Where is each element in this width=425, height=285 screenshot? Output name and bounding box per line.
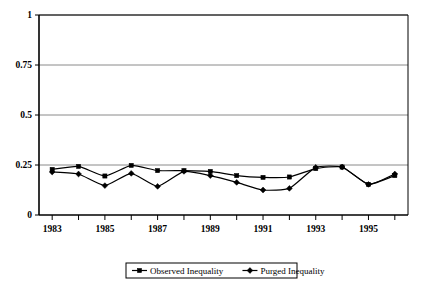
x-tick-label-1989: 1989	[201, 224, 220, 234]
data-point-1-1987	[156, 169, 160, 173]
data-point-1-1986	[129, 163, 133, 167]
data-point-2-1984	[76, 171, 82, 177]
x-tick-label-1995: 1995	[359, 224, 378, 234]
x-tick-label-1985: 1985	[95, 224, 114, 234]
y-tick-label-0: 0	[27, 210, 32, 220]
chart-legend: Observed InequalityPurged Inequality	[126, 263, 325, 278]
inequality-line-chart: 00.250.50.751 19831985198719891991199319…	[0, 0, 425, 285]
data-point-2-1986	[128, 171, 134, 177]
x-tick-label-1983: 1983	[43, 224, 62, 234]
data-point-2-1991	[260, 187, 266, 193]
legend-label-2: Purged Inequality	[260, 266, 325, 276]
data-point-2-1985	[102, 183, 108, 189]
series-2	[49, 164, 397, 193]
y-tick-label-1: 1	[27, 10, 32, 20]
data-point-2-1987	[155, 184, 161, 190]
chart-container: 00.250.50.751 19831985198719891991199319…	[0, 0, 425, 285]
data-point-2-1990	[234, 180, 240, 186]
x-tick-label-1987: 1987	[148, 224, 167, 234]
gridlines	[39, 15, 408, 165]
data-series	[49, 163, 397, 193]
data-point-1-1992	[287, 175, 291, 179]
data-point-1-1991	[261, 175, 265, 179]
data-point-1-1990	[235, 174, 239, 178]
x-tick-label-1991: 1991	[254, 224, 273, 234]
y-axis-tick-labels: 00.250.50.751	[15, 10, 32, 220]
data-point-1-1985	[103, 174, 107, 178]
legend-marker-1	[137, 268, 141, 272]
data-point-2-1992	[286, 186, 292, 192]
x-tick-label-1993: 1993	[306, 224, 325, 234]
y-tick-label-0.25: 0.25	[15, 160, 32, 170]
x-axis-tick-labels: 1983198519871989199119931995	[43, 224, 379, 234]
y-tick-label-0.75: 0.75	[15, 60, 32, 70]
data-point-1-1984	[76, 164, 80, 168]
legend-label-1: Observed Inequality	[150, 266, 224, 276]
y-tick-label-0.5: 0.5	[20, 110, 32, 120]
